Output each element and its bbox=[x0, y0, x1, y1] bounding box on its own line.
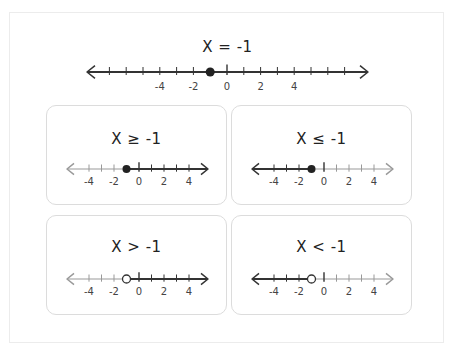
tick-label: -4 bbox=[269, 176, 279, 187]
open-point-icon bbox=[308, 275, 316, 283]
number-line-graphic: -4-2024 bbox=[232, 106, 413, 206]
tick-label: 4 bbox=[186, 286, 192, 297]
tick-label: 2 bbox=[346, 176, 352, 187]
tick-label: 0 bbox=[321, 286, 327, 297]
tick-label: -4 bbox=[84, 176, 94, 187]
card-less: X < -1 -4-2024 bbox=[231, 215, 412, 315]
open-point-icon bbox=[123, 275, 131, 283]
tick-label: 2 bbox=[161, 286, 167, 297]
tick-label: -2 bbox=[109, 286, 119, 297]
tick-label: 4 bbox=[186, 176, 192, 187]
tick-label: 0 bbox=[136, 286, 142, 297]
closed-point-icon bbox=[206, 68, 215, 77]
tick-label: -4 bbox=[155, 81, 165, 92]
card-less-equal: X ≤ -1 -4-2024 bbox=[231, 105, 412, 205]
number-line-graphic: -4-2024 bbox=[232, 216, 413, 316]
card-greater-equal: X ≥ -1 -4-2024 bbox=[46, 105, 227, 205]
main-number-line-graphic: -4-2024 bbox=[0, 0, 455, 100]
tick-label: -2 bbox=[188, 81, 198, 92]
tick-label: 4 bbox=[371, 176, 377, 187]
number-line-graphic: -4-2024 bbox=[47, 216, 228, 316]
tick-label: 2 bbox=[346, 286, 352, 297]
tick-label: 4 bbox=[371, 286, 377, 297]
number-line-graphic: -4-2024 bbox=[47, 106, 228, 206]
tick-label: 0 bbox=[224, 81, 230, 92]
tick-label: -4 bbox=[84, 286, 94, 297]
tick-label: 4 bbox=[291, 81, 297, 92]
tick-label: 0 bbox=[136, 176, 142, 187]
tick-label: -2 bbox=[294, 176, 304, 187]
tick-label: -2 bbox=[109, 176, 119, 187]
tick-label: -4 bbox=[269, 286, 279, 297]
card-greater: X > -1 -4-2024 bbox=[46, 215, 227, 315]
tick-label: 0 bbox=[321, 176, 327, 187]
tick-label: 2 bbox=[257, 81, 263, 92]
tick-label: -2 bbox=[294, 286, 304, 297]
closed-point-icon bbox=[123, 165, 131, 173]
tick-label: 2 bbox=[161, 176, 167, 187]
closed-point-icon bbox=[308, 165, 316, 173]
